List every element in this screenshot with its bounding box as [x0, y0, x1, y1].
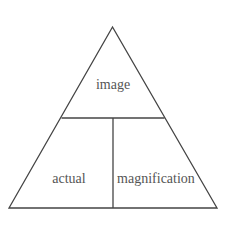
formula-triangle-diagram: image actual magnification	[0, 0, 232, 225]
label-actual: actual	[52, 171, 86, 186]
label-magnification: magnification	[117, 171, 195, 186]
label-image: image	[96, 77, 130, 92]
